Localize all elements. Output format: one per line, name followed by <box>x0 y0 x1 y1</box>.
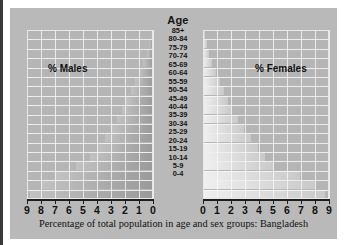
chart-panel: Age 85+80-8475-7970-7465-6960-6455-5950-… <box>10 8 337 239</box>
axis-tick-label: 4 <box>252 204 266 216</box>
males-plot-frame <box>27 30 153 199</box>
females-axis-line <box>203 199 329 201</box>
age-label-list: 85+80-8475-7970-7465-6960-6455-5950-5445… <box>155 27 201 179</box>
axis-tick-label: 7 <box>294 204 308 216</box>
females-x-axis: 0123456789 <box>203 199 329 217</box>
males-axis-line <box>27 199 153 201</box>
age-axis-column: Age 85+80-8475-7970-7465-6960-6455-5950-… <box>155 14 201 204</box>
axis-tick-label: 3 <box>238 204 252 216</box>
axis-tick-label: 9 <box>20 204 34 216</box>
axis-tick-label: 8 <box>308 204 322 216</box>
axis-tick-label: 5 <box>76 204 90 216</box>
axis-tick-label: 3 <box>104 204 118 216</box>
axis-tick-label: 0 <box>196 204 210 216</box>
females-series-label: % Females <box>255 63 307 74</box>
page-edge-rule <box>0 0 3 245</box>
males-x-axis: 9876543210 <box>27 199 153 217</box>
females-plot-area <box>203 30 329 199</box>
age-label: 0-4 <box>155 170 201 178</box>
males-series-label: % Males <box>48 63 87 74</box>
gridline-vertical <box>329 30 330 199</box>
axis-tick-label: 0 <box>146 204 160 216</box>
axis-tick-label: 2 <box>224 204 238 216</box>
figure-caption: Percentage of total population in age an… <box>10 218 337 229</box>
axis-tick-label: 2 <box>118 204 132 216</box>
age-axis-title: Age <box>155 14 201 26</box>
axis-tick-label: 5 <box>266 204 280 216</box>
axis-tick-label: 1 <box>210 204 224 216</box>
males-plot-area <box>27 30 153 199</box>
axis-tick-label: 6 <box>62 204 76 216</box>
females-plot-frame <box>203 30 329 199</box>
axis-tick-label: 4 <box>90 204 104 216</box>
axis-tick-label: 1 <box>132 204 146 216</box>
population-pyramid-figure: Age 85+80-8475-7970-7465-6960-6455-5950-… <box>0 0 347 245</box>
axis-tick-label: 6 <box>280 204 294 216</box>
axis-tick-label: 9 <box>322 204 336 216</box>
axis-tick-label: 8 <box>34 204 48 216</box>
gridline-vertical <box>153 30 154 199</box>
axis-tick-label: 7 <box>48 204 62 216</box>
